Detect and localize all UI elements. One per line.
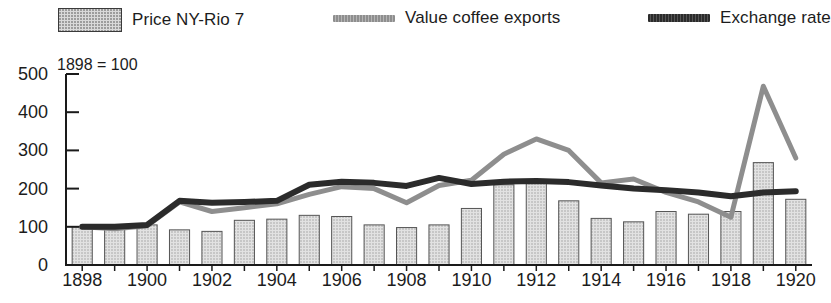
x-tick-label-1914: 1914 [581,270,621,291]
x-tick-label-1902: 1902 [192,270,232,291]
y-tick-label-0: 0 [4,255,48,276]
x-tick-label-1916: 1916 [646,270,686,291]
bar-1898 [72,227,92,265]
bar-1909 [429,225,449,265]
bar-1905 [299,215,319,265]
bar-1903 [234,220,254,265]
bar-1914 [591,218,611,265]
x-tick-label-1920: 1920 [776,270,816,291]
bar-1900 [137,225,157,265]
bar-1899 [105,229,125,265]
x-tick-label-1906: 1906 [322,270,362,291]
x-tick-label-1912: 1912 [516,270,556,291]
bar-1917 [688,214,708,265]
x-tick-label-1910: 1910 [451,270,491,291]
x-tick-label-1918: 1918 [711,270,751,291]
line-value-coffee-exports [82,86,796,228]
x-tick-label-1904: 1904 [257,270,297,291]
x-tick-label-1898: 1898 [62,270,102,291]
bar-1908 [397,228,417,265]
y-tick-label-300: 300 [4,140,48,161]
x-tick-label-1900: 1900 [127,270,167,291]
bar-1906 [332,216,352,265]
y-tick-label-100: 100 [4,216,48,237]
bar-1920 [786,199,806,265]
bar-1912 [526,183,546,265]
y-axis-tick-labels: 0100200300400500 [0,0,48,303]
bar-1910 [461,208,481,265]
x-tick-label-1908: 1908 [387,270,427,291]
bar-1901 [169,230,189,265]
bar-1916 [656,212,676,265]
bar-1911 [494,185,514,265]
y-tick-label-500: 500 [4,64,48,85]
y-tick-label-400: 400 [4,102,48,123]
y-tick-label-200: 200 [4,178,48,199]
bar-1907 [364,225,384,265]
bar-1902 [202,231,222,265]
bar-1919 [753,163,773,265]
bar-1915 [624,222,644,265]
bar-1904 [267,219,287,265]
bar-1913 [559,201,579,265]
